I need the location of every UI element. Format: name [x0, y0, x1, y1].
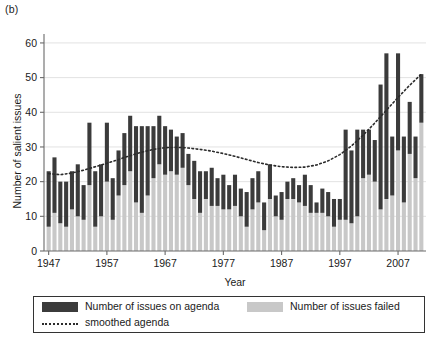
bar-segment-on-agenda [128, 116, 132, 171]
bar-segment-on-agenda [146, 126, 150, 195]
bar-segment-on-agenda [297, 185, 301, 202]
bar-segment-on-agenda [379, 85, 383, 210]
bar-segment-on-agenda [157, 116, 161, 165]
bar-segment-on-agenda [82, 185, 86, 220]
bar-segment-failed [70, 209, 74, 251]
bar-segment-failed [128, 171, 132, 251]
bar-segment-failed [239, 216, 243, 251]
bar-segment-failed [186, 185, 190, 251]
bar-segment-failed [210, 206, 214, 251]
bar-segment-on-agenda [169, 130, 173, 172]
bar-segment-failed [256, 202, 260, 251]
bar-segment-on-agenda [163, 126, 167, 175]
bar-segment-on-agenda [402, 137, 406, 203]
bar-segment-on-agenda [210, 168, 214, 206]
bar-segment-on-agenda [344, 130, 348, 220]
bar-segment-on-agenda [413, 137, 417, 179]
chart-plot-area: 0102030405060194719571967197719871997200… [0, 0, 438, 296]
bar-segment-failed [344, 220, 348, 251]
x-tick-label: 1957 [95, 257, 119, 269]
bar-segment-failed [274, 216, 278, 251]
dark-square-swatch-icon [42, 302, 78, 312]
bar-segment-on-agenda [291, 178, 295, 199]
bar-segment-failed [198, 213, 202, 251]
bar-segment-on-agenda [64, 182, 68, 227]
bar-segment-on-agenda [70, 171, 74, 209]
bar-segment-failed [227, 209, 231, 251]
bar-segment-on-agenda [175, 137, 179, 175]
bar-segment-failed [181, 168, 185, 251]
bar-segment-failed [151, 178, 155, 251]
bar-segment-on-agenda [111, 178, 115, 220]
legend-label-smoothed: smoothed agenda [85, 317, 169, 328]
bar-segment-failed [221, 209, 225, 251]
bar-segment-failed [303, 206, 307, 251]
bar-segment-failed [355, 216, 359, 251]
bar-segment-on-agenda [221, 175, 225, 210]
bar-segment-failed [402, 202, 406, 251]
bar-segment-failed [379, 209, 383, 251]
light-square-swatch-icon [247, 302, 283, 312]
x-tick-label: 1987 [270, 257, 294, 269]
bar-segment-on-agenda [181, 133, 185, 168]
bar-segment-on-agenda [140, 126, 144, 213]
bar-segment-on-agenda [215, 178, 219, 206]
bar-segment-on-agenda [233, 175, 237, 206]
bar-segment-failed [320, 213, 324, 251]
bar-segment-failed [250, 209, 254, 251]
bar-segment-failed [332, 227, 336, 251]
bar-segment-failed [58, 223, 62, 251]
bar-segment-failed [169, 171, 173, 251]
bar-segment-failed [314, 213, 318, 251]
bar-segment-on-agenda [408, 102, 412, 154]
legend-item-failed: Number of issues failed [247, 301, 400, 312]
bar-segment-on-agenda [349, 150, 353, 223]
bar-segment-on-agenda [47, 171, 51, 226]
bar-segment-failed [140, 213, 144, 251]
figure-panel-b: (b) Number of salient issues Year 010203… [0, 0, 438, 339]
bar-segment-on-agenda [105, 123, 109, 182]
bar-segment-failed [122, 185, 126, 251]
bar-segment-on-agenda [338, 199, 342, 220]
bar-segment-failed [157, 164, 161, 251]
bar-segment-failed [349, 223, 353, 251]
bar-segment-failed [285, 199, 289, 251]
y-tick-label: 40 [25, 106, 37, 118]
bar-segment-on-agenda [285, 182, 289, 199]
x-tick-label: 2007 [386, 257, 410, 269]
bar-segment-on-agenda [419, 74, 423, 123]
bar-segment-on-agenda [122, 133, 126, 185]
bar-segment-failed [192, 199, 196, 251]
bar-segment-on-agenda [309, 185, 313, 213]
bar-segment-failed [111, 220, 115, 251]
bar-segment-on-agenda [280, 192, 284, 220]
bar-segment-on-agenda [390, 137, 394, 196]
x-tick-label: 1947 [37, 257, 61, 269]
bar-segment-on-agenda [227, 185, 231, 209]
bar-segment-failed [146, 196, 150, 251]
bar-segment-failed [280, 220, 284, 251]
bar-segment-failed [76, 216, 80, 251]
bar-segment-failed [384, 199, 388, 251]
bar-segment-failed [245, 227, 249, 251]
bar-segment-failed [47, 227, 51, 251]
bar-segment-on-agenda [332, 199, 336, 227]
bar-segment-on-agenda [117, 150, 121, 195]
bar-segment-failed [99, 216, 103, 251]
bar-segment-failed [64, 227, 68, 251]
bar-segment-on-agenda [87, 123, 91, 185]
x-tick-label: 1977 [212, 257, 236, 269]
bar-segment-failed [326, 216, 330, 251]
bar-segment-failed [413, 178, 417, 251]
y-tick-label: 30 [25, 141, 37, 153]
bar-segment-on-agenda [151, 126, 155, 178]
legend-label-failed: Number of issues failed [290, 301, 400, 312]
bar-segment-on-agenda [245, 192, 249, 227]
bar-segment-failed [338, 220, 342, 251]
bar-segment-on-agenda [320, 189, 324, 213]
bar-segment-failed [204, 199, 208, 251]
bar-segment-on-agenda [314, 202, 318, 212]
bar-segment-on-agenda [262, 202, 266, 230]
bar-segment-failed [373, 182, 377, 251]
bar-segment-on-agenda [239, 189, 243, 217]
